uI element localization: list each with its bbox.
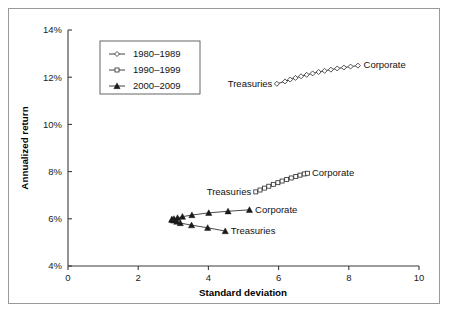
marker-diamond (328, 67, 333, 72)
x-tick-label: 2 (136, 272, 141, 283)
marker-diamond (348, 64, 353, 69)
marker-diamond (304, 72, 309, 77)
marker-diamond (355, 63, 360, 68)
x-tick-label: 10 (414, 272, 425, 283)
risk-return-chart: 0246810 4%6%8%10%12%14% TreasuriesCorpor… (0, 0, 450, 319)
marker-square (267, 184, 271, 188)
point-label: Treasuries (207, 186, 252, 197)
x-axis-title: Standard deviation (199, 287, 287, 298)
legend-item-label: 2000–2009 (133, 80, 181, 91)
marker-diamond (299, 74, 304, 79)
series-1980-1989 (274, 63, 360, 86)
y-axis-title: Annualized return (19, 106, 30, 189)
marker-square (305, 171, 309, 175)
x-tick-label: 8 (346, 272, 351, 283)
marker-square (271, 182, 275, 186)
marker-square (280, 179, 284, 183)
marker-diamond (288, 77, 293, 82)
marker-square (289, 176, 293, 180)
y-tick-label: 12% (43, 72, 63, 83)
legend-item-label: 1980–1989 (133, 48, 181, 59)
marker-square (294, 175, 298, 179)
marker-square (263, 186, 267, 190)
marker-square (285, 177, 289, 181)
x-tick-label: 0 (65, 272, 70, 283)
y-tick-label: 10% (43, 119, 63, 130)
y-tick-label: 8% (48, 166, 62, 177)
marker-square (276, 181, 280, 185)
marker-diamond (341, 65, 346, 70)
x-axis-ticks: 0246810 (65, 266, 424, 283)
marker-square (254, 190, 258, 194)
series-1990-1999 (254, 171, 310, 194)
marker-square (258, 188, 262, 192)
annotation-labels: TreasuriesCorporateTreasuriesCorporateCo… (207, 59, 406, 236)
point-label: Corporate (312, 167, 354, 178)
x-tick-label: 4 (206, 272, 211, 283)
marker-diamond (282, 79, 287, 84)
marker-diamond (274, 81, 279, 86)
y-tick-label: 6% (48, 213, 62, 224)
legend-item-label: 1990–1999 (133, 64, 181, 75)
point-label: Corporate (364, 59, 406, 70)
point-label: Corporate (255, 204, 297, 215)
marker-square (115, 68, 119, 72)
marker-diamond (335, 66, 340, 71)
y-tick-label: 4% (48, 260, 62, 271)
series-2000-2009-corporate (169, 207, 253, 222)
marker-diamond (310, 71, 315, 76)
marker-diamond (316, 70, 321, 75)
marker-diamond (322, 68, 327, 73)
marker-square (298, 173, 302, 177)
point-label: Treasuries (231, 225, 276, 236)
x-tick-label: 6 (276, 272, 281, 283)
y-tick-label: 14% (43, 24, 63, 35)
chart-legend: 1980–19891990–19992000–2009 (100, 41, 200, 94)
marker-diamond (293, 75, 298, 80)
point-label: Treasuries (228, 78, 273, 89)
